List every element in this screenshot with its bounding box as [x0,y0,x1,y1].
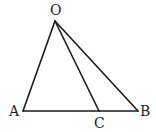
label-a: A [8,103,20,119]
segment-oa [23,21,55,111]
segment-oc [55,21,99,111]
label-b: B [140,103,150,119]
segment-ob [55,21,138,111]
triangle-diagram: O A B C [0,0,156,132]
label-c: C [94,115,105,131]
label-o: O [50,2,61,18]
